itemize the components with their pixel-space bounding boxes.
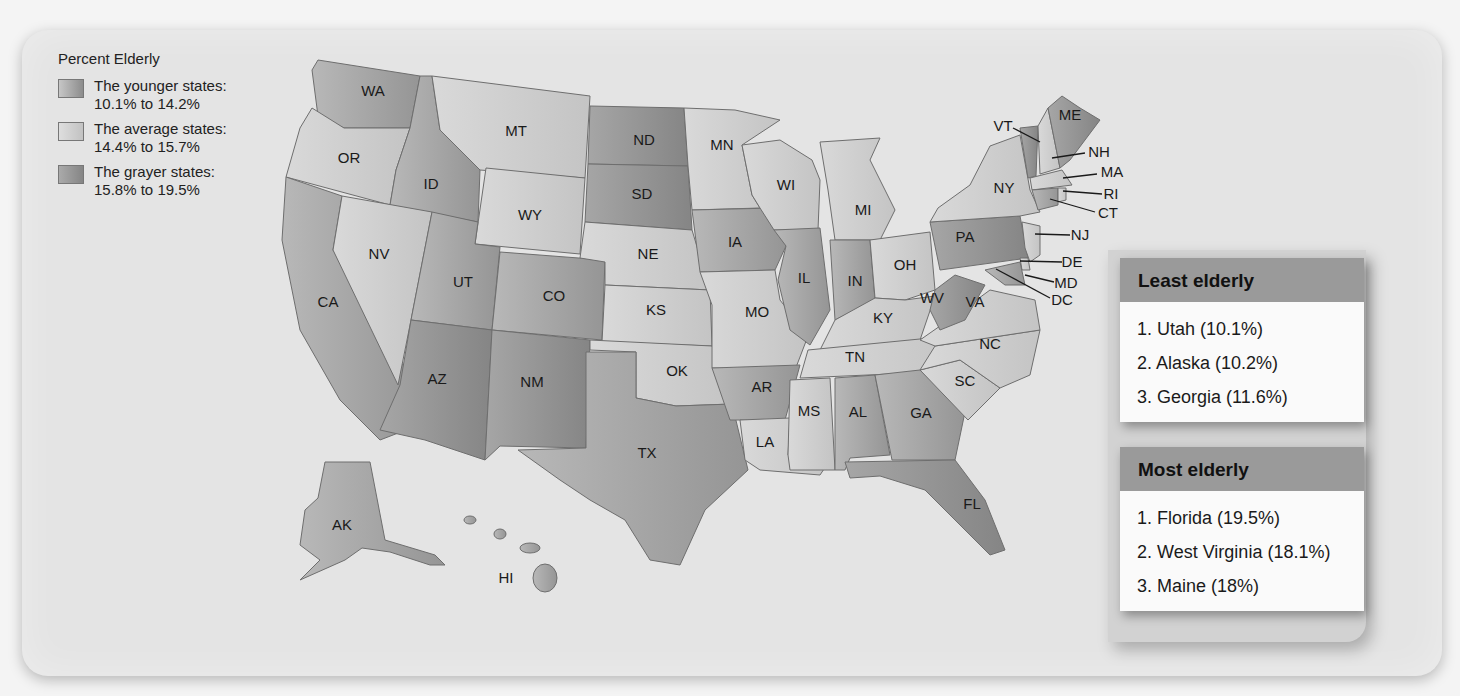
state-label: MO xyxy=(745,303,769,320)
state-label: LA xyxy=(756,433,774,450)
state-label: ID xyxy=(424,175,439,192)
state-label: AL xyxy=(849,403,867,420)
state-nm[interactable] xyxy=(485,330,590,460)
state-label: NM xyxy=(520,373,543,390)
state-label: VT xyxy=(993,117,1012,134)
state-mi[interactable] xyxy=(820,138,895,240)
state-ri[interactable] xyxy=(1058,188,1066,202)
state-label: OK xyxy=(666,362,688,379)
state-label: MS xyxy=(798,402,821,419)
least-elderly-item: 2. Alaska (10.2%) xyxy=(1137,346,1364,380)
state-label: MT xyxy=(505,122,527,139)
state-label: FL xyxy=(963,495,981,512)
most-elderly-title: Most elderly xyxy=(1120,447,1364,491)
state-label: ND xyxy=(633,131,655,148)
state-label: NJ xyxy=(1071,226,1089,243)
state-label: CT xyxy=(1098,204,1118,221)
state-label: MI xyxy=(855,201,872,218)
state-ak[interactable] xyxy=(300,462,445,580)
state-label: UT xyxy=(453,273,473,290)
state-label: WI xyxy=(777,176,795,193)
state-label: TN xyxy=(845,348,865,365)
state-label: CO xyxy=(543,287,566,304)
least-elderly-box: Least elderly 1. Utah (10.1%) 2. Alaska … xyxy=(1120,258,1364,422)
state-label: CA xyxy=(318,293,339,310)
state-label: KS xyxy=(646,301,666,318)
state-label: WA xyxy=(361,82,385,99)
state-label: NC xyxy=(979,335,1001,352)
most-elderly-item: 3. Maine (18%) xyxy=(1137,569,1364,603)
state-label: GA xyxy=(910,404,932,421)
state-label: OR xyxy=(338,149,361,166)
state-label: NH xyxy=(1088,143,1110,160)
states-layer xyxy=(282,60,1100,592)
state-label: MN xyxy=(710,136,733,153)
least-elderly-item: 3. Georgia (11.6%) xyxy=(1137,380,1364,414)
most-elderly-item: 2. West Virginia (18.1%) xyxy=(1137,535,1364,569)
state-pa[interactable] xyxy=(930,216,1028,270)
most-elderly-box: Most elderly 1. Florida (19.5%) 2. West … xyxy=(1120,447,1364,611)
state-label: SC xyxy=(955,372,976,389)
most-elderly-item: 1. Florida (19.5%) xyxy=(1137,501,1364,535)
state-label: HI xyxy=(499,569,514,586)
state-label: AZ xyxy=(427,370,446,387)
state-label: NE xyxy=(638,245,659,262)
state-label: PA xyxy=(956,228,975,245)
state-label: NV xyxy=(369,245,390,262)
least-elderly-title: Least elderly xyxy=(1120,258,1364,302)
state-label: ME xyxy=(1059,106,1082,123)
state-label: DE xyxy=(1062,253,1083,270)
state-label: AK xyxy=(332,516,352,533)
state-label: WV xyxy=(920,289,944,306)
state-label: AR xyxy=(752,378,773,395)
state-ms[interactable] xyxy=(788,378,835,470)
state-label: KY xyxy=(873,309,893,326)
state-label: OH xyxy=(894,256,917,273)
state-label: MA xyxy=(1101,163,1124,180)
state-label: VA xyxy=(966,293,985,310)
state-label: DC xyxy=(1051,291,1073,308)
state-label: IL xyxy=(798,269,811,286)
state-label: TX xyxy=(637,444,656,461)
state-label: MD xyxy=(1054,274,1077,291)
state-label: WY xyxy=(518,206,542,223)
state-label: IN xyxy=(848,272,863,289)
state-label: IA xyxy=(728,233,742,250)
state-label: RI xyxy=(1104,185,1119,202)
least-elderly-item: 1. Utah (10.1%) xyxy=(1137,312,1364,346)
state-fl[interactable] xyxy=(845,460,1005,555)
state-label: SD xyxy=(632,185,653,202)
state-label: NY xyxy=(994,179,1015,196)
